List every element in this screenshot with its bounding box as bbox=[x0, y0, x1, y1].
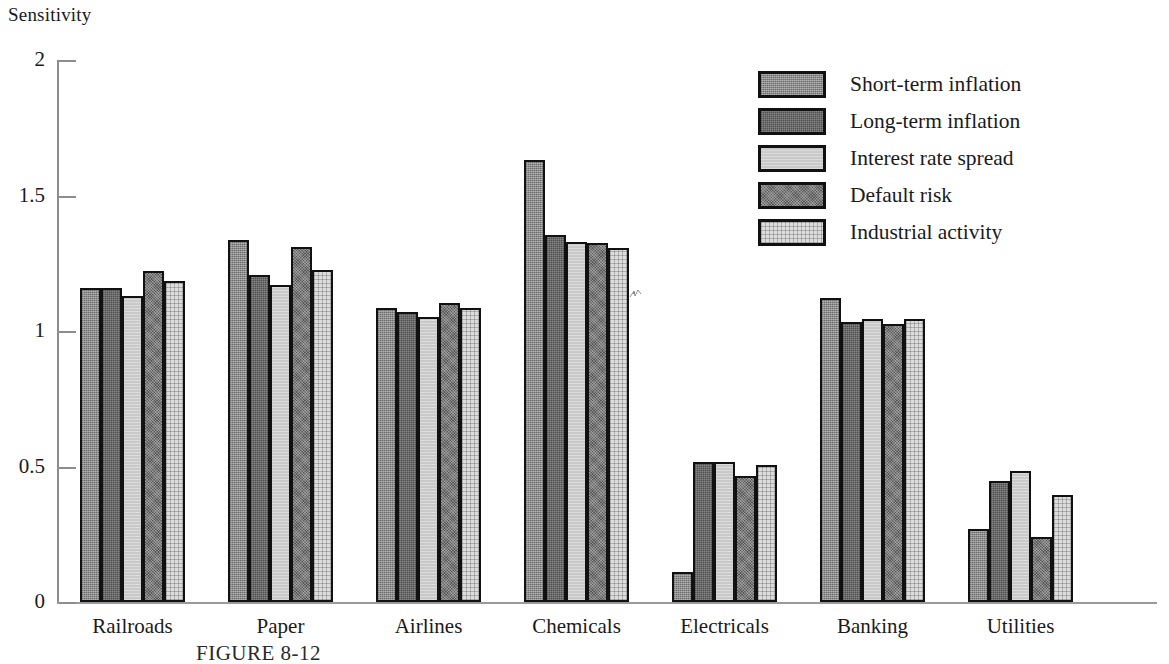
bar bbox=[714, 462, 735, 602]
bar bbox=[566, 242, 587, 602]
bar-group bbox=[228, 60, 333, 602]
y-tick-mark bbox=[59, 331, 76, 333]
y-tick-label: 1 bbox=[35, 318, 46, 343]
legend-swatch bbox=[758, 219, 826, 246]
y-tick-mark bbox=[59, 602, 76, 604]
bar bbox=[841, 322, 862, 602]
legend-item: Short-term inflation bbox=[758, 66, 1021, 102]
bar bbox=[524, 160, 545, 602]
y-tick-mark bbox=[59, 60, 76, 62]
bar bbox=[418, 317, 439, 602]
chart-legend: Short-term inflationLong-term inflationI… bbox=[758, 66, 1021, 251]
bar bbox=[312, 270, 333, 602]
bar bbox=[376, 308, 397, 602]
x-axis-label: Utilities bbox=[987, 614, 1055, 639]
x-axis-label: Railroads bbox=[92, 614, 172, 639]
bar bbox=[80, 288, 101, 602]
bar bbox=[904, 319, 925, 602]
x-axis-label: Banking bbox=[837, 614, 908, 639]
bar bbox=[291, 247, 312, 602]
bar bbox=[101, 288, 122, 602]
legend-label: Long-term inflation bbox=[850, 109, 1020, 134]
y-tick-label: 2 bbox=[35, 47, 46, 72]
bar bbox=[672, 572, 693, 602]
y-axis-title: Sensitivity bbox=[8, 4, 92, 26]
bar bbox=[735, 476, 756, 602]
y-tick-mark bbox=[59, 196, 76, 198]
bar bbox=[1010, 471, 1031, 602]
x-axis-label: Chemicals bbox=[532, 614, 621, 639]
bar bbox=[883, 324, 904, 602]
bar bbox=[862, 319, 883, 602]
y-tick-mark bbox=[59, 467, 76, 469]
legend-swatch bbox=[758, 182, 826, 209]
bar bbox=[608, 248, 629, 602]
legend-label: Default risk bbox=[850, 183, 952, 208]
legend-item: Long-term inflation bbox=[758, 103, 1021, 139]
bar bbox=[397, 312, 418, 602]
bar bbox=[439, 303, 460, 602]
bar bbox=[143, 271, 164, 602]
bar bbox=[249, 275, 270, 602]
bar bbox=[989, 481, 1010, 602]
bar bbox=[545, 235, 566, 602]
bar bbox=[164, 281, 185, 602]
bar bbox=[270, 285, 291, 602]
legend-item: Default risk bbox=[758, 177, 1021, 213]
legend-swatch bbox=[758, 145, 826, 172]
bar bbox=[820, 298, 841, 602]
bar bbox=[1031, 537, 1052, 602]
x-axis-label: Electricals bbox=[680, 614, 769, 639]
bar-group bbox=[524, 60, 629, 602]
scan-artifact bbox=[629, 288, 642, 299]
figure-caption: FIGURE 8-12 bbox=[196, 641, 321, 664]
legend-swatch bbox=[758, 108, 826, 135]
bar bbox=[122, 296, 143, 602]
bar bbox=[693, 462, 714, 602]
legend-item: Industrial activity bbox=[758, 214, 1021, 250]
x-axis-label: Airlines bbox=[395, 614, 463, 639]
y-tick-label: 0 bbox=[35, 589, 46, 614]
bar-group bbox=[376, 60, 481, 602]
x-axis-line bbox=[57, 602, 1157, 604]
bar bbox=[460, 308, 481, 602]
legend-label: Industrial activity bbox=[850, 220, 1002, 245]
bar-group bbox=[80, 60, 185, 602]
bar bbox=[587, 243, 608, 602]
y-tick-label: 0.5 bbox=[19, 454, 45, 479]
x-axis-label: Paper bbox=[257, 614, 305, 639]
bar bbox=[756, 465, 777, 602]
legend-label: Interest rate spread bbox=[850, 146, 1014, 171]
bar bbox=[1052, 495, 1073, 602]
legend-item: Interest rate spread bbox=[758, 140, 1021, 176]
y-tick-label: 1.5 bbox=[19, 183, 45, 208]
legend-label: Short-term inflation bbox=[850, 72, 1021, 97]
legend-swatch bbox=[758, 71, 826, 98]
bar bbox=[968, 529, 989, 602]
bar bbox=[228, 240, 249, 602]
